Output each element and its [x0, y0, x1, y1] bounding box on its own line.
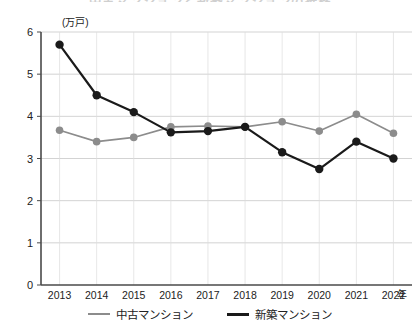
data-point	[278, 148, 286, 156]
y-axis-tick-label: 5	[27, 68, 33, 80]
x-axis-tick-label: 2020	[308, 289, 332, 300]
y-axis-tick-label: 0	[27, 279, 33, 291]
y-axis-tick-label: 1	[27, 237, 33, 249]
series-line-new-condo	[60, 45, 394, 169]
data-point	[130, 108, 138, 116]
y-axis-tick-labels: 0123456	[27, 26, 41, 291]
legend-item-new-condo[interactable]: 新築マンション	[227, 306, 332, 322]
x-axis-tick-label: 2021	[345, 289, 369, 300]
series-points-group	[55, 40, 397, 173]
data-point	[315, 165, 323, 173]
x-axis-tick-label: 2018	[233, 289, 257, 300]
y-axis-tick-label: 3	[27, 153, 33, 165]
x-axis-unit-label: 年	[397, 288, 407, 300]
data-point	[278, 118, 286, 126]
data-point	[353, 110, 361, 118]
legend-label-used-condo: 中古マンション	[116, 306, 193, 322]
data-point	[92, 91, 100, 99]
data-point	[56, 126, 64, 134]
gridlines-group	[41, 32, 412, 285]
x-axis-tick-label: 2014	[85, 289, 109, 300]
x-axis-tick-label: 2017	[196, 289, 220, 300]
data-point	[315, 127, 323, 135]
legend-item-used-condo[interactable]: 中古マンション	[88, 306, 193, 322]
series-lines-group	[60, 45, 394, 169]
legend-label-new-condo: 新築マンション	[255, 306, 332, 322]
data-point	[93, 138, 101, 146]
x-axis-tick-label: 2019	[270, 289, 294, 300]
data-point	[241, 123, 249, 131]
data-point	[130, 134, 138, 142]
x-axis-tick-label: 2016	[159, 289, 183, 300]
data-point	[55, 40, 63, 48]
chart-legend: 中古マンション 新築マンション	[0, 306, 420, 322]
data-point	[204, 127, 212, 135]
y-axis-tick-label: 2	[27, 195, 33, 207]
legend-swatch-new-condo	[227, 313, 249, 316]
data-point	[390, 129, 398, 137]
x-axis-tick-labels: 2013201420152016201720182019202020212022	[48, 289, 405, 300]
data-point	[352, 137, 360, 145]
x-axis-tick-label: 2015	[122, 289, 146, 300]
data-point	[389, 154, 397, 162]
y-axis-tick-label: 4	[27, 110, 33, 122]
y-axis-tick-label: 6	[27, 26, 33, 38]
chart-container: 中古マンションと新築マンションの推移 (万戸) 0123456 20132014…	[0, 0, 420, 329]
data-point	[167, 128, 175, 136]
x-axis-tick-label: 2013	[48, 289, 72, 300]
line-chart-plot: 0123456 20132014201520162017201820192020…	[0, 0, 420, 300]
legend-swatch-used-condo	[88, 313, 110, 315]
